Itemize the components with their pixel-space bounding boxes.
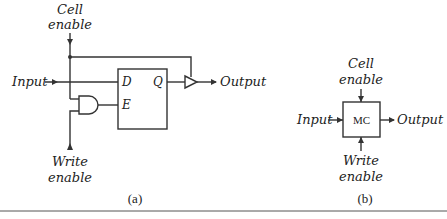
subfigure-a-label: (a) xyxy=(128,191,142,206)
pin-d-label: D xyxy=(121,75,132,89)
output-arrow-icon xyxy=(211,79,217,85)
block-write-enable-arrow-icon xyxy=(358,137,364,143)
block-write-enable-label-line2: enable xyxy=(339,169,383,184)
subfigure-b-label: (b) xyxy=(357,191,372,206)
and-gate-icon xyxy=(79,96,98,114)
memory-cell-circuit: Cell enable Input D E Q Write enable xyxy=(11,2,267,206)
output-label: Output xyxy=(220,74,267,89)
write-enable-wire xyxy=(70,111,79,150)
pin-e-label: E xyxy=(121,98,131,112)
block-input-label: Input xyxy=(296,112,333,127)
write-enable-arrow-icon xyxy=(67,143,73,150)
tristate-buffer-icon xyxy=(185,76,197,88)
block-input-arrow-icon xyxy=(337,117,343,123)
block-cell-enable-label-line2: enable xyxy=(339,72,383,87)
write-enable-label-line2: enable xyxy=(48,170,92,185)
block-output-label: Output xyxy=(397,112,444,127)
write-enable-label-line1: Write xyxy=(52,154,88,169)
cell-enable-label-line1: Cell xyxy=(57,2,83,17)
pin-q-label: Q xyxy=(153,75,163,89)
cell-enable-label-line2: enable xyxy=(48,17,92,32)
block-output-arrow-icon xyxy=(389,117,395,123)
memory-cell-figure: Cell enable Input D E Q Write enable xyxy=(0,0,447,219)
block-cell-enable-label-line1: Cell xyxy=(348,56,374,71)
input-label: Input xyxy=(11,74,48,89)
input-arrow-icon xyxy=(52,79,58,85)
cell-enable-arrow-icon xyxy=(67,39,73,45)
memory-cell-block-symbol: Cell enable MC Input Output Write enable… xyxy=(296,56,444,206)
block-cell-enable-arrow-icon xyxy=(358,96,364,102)
block-write-enable-label-line1: Write xyxy=(343,153,379,168)
mc-label: MC xyxy=(353,114,370,126)
